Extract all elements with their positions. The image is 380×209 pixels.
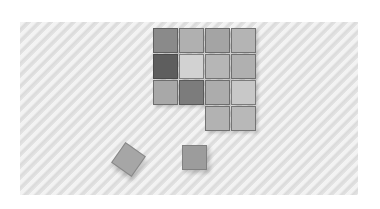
- cube: [205, 80, 230, 105]
- cube: [231, 28, 256, 53]
- cube: [205, 28, 230, 53]
- cube: [231, 54, 256, 79]
- cubes-photo: [20, 22, 358, 195]
- cube: [153, 80, 178, 105]
- cube: [205, 54, 230, 79]
- cube: [179, 28, 204, 53]
- loose-cube: [111, 142, 146, 177]
- cube: [179, 80, 204, 105]
- cube: [153, 28, 178, 53]
- cube: [179, 54, 204, 79]
- cube: [205, 106, 230, 131]
- cube: [231, 106, 256, 131]
- cube: [153, 54, 178, 79]
- cube: [231, 80, 256, 105]
- loose-cube: [182, 145, 207, 170]
